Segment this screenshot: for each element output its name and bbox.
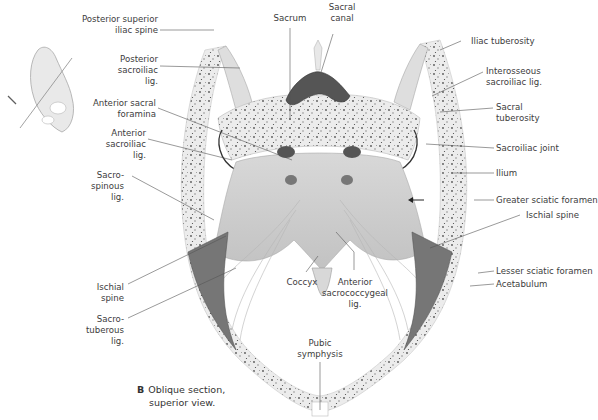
label-pubic-symphysis: Pubic symphysis: [294, 338, 346, 360]
label-ischial-spine-right: Ischial spine: [526, 210, 579, 221]
label-anterior-sacroiliac-lig: Anterior sacroiliac lig.: [56, 128, 146, 161]
panel-letter: B: [137, 384, 144, 395]
label-sacrospinous-lig: Sacro- spinous lig.: [56, 170, 124, 203]
label-anterior-sacrococcygeal-lig: Anterior sacrococcygeal lig.: [322, 277, 388, 310]
label-posterior-superior-iliac-spine: Posterior superior iliac spine: [66, 14, 158, 36]
sacrum-shape: [218, 95, 420, 160]
label-coccyx: Coccyx: [280, 277, 324, 288]
label-acetabulum: Acetabulum: [496, 279, 547, 290]
label-sacroiliac-joint: Sacroiliac joint: [496, 143, 559, 154]
label-interosseous-sacroiliac-lig: Interosseous sacroiliac lig.: [486, 66, 542, 88]
label-sacrotuberous-lig: Sacro- tuberous lig.: [56, 314, 124, 347]
label-sacral-tuberosity: Sacral tuberosity: [496, 102, 539, 124]
label-sacral-canal: Sacral canal: [322, 2, 362, 24]
caption-line-1: Oblique section,: [148, 384, 225, 395]
label-greater-sciatic-foramen: Greater sciatic foramen: [496, 195, 598, 206]
label-anterior-sacral-foramina: Anterior sacral foramina: [56, 98, 156, 120]
caption-line-2: superior view.: [137, 396, 225, 409]
label-ilium: Ilium: [496, 168, 517, 179]
label-sacrum: Sacrum: [268, 13, 312, 24]
label-lesser-sciatic-foramen: Lesser sciatic foramen: [496, 266, 593, 277]
label-iliac-tuberosity: Iliac tuberosity: [471, 36, 535, 47]
label-posterior-sacroiliac-lig: Posterior sacroiliac lig.: [66, 54, 158, 87]
figure-caption: BOblique section, superior view.: [137, 383, 225, 409]
anterior-ligament-mass: [214, 153, 426, 270]
label-ischial-spine-left: Ischial spine: [56, 282, 124, 304]
